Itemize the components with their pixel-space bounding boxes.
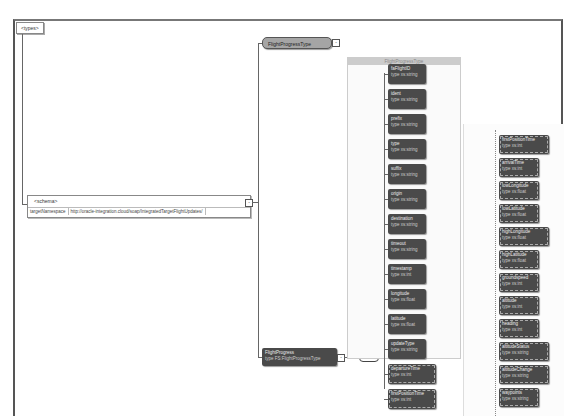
child-element-node[interactable]: altitudeChangetype xs:string [499, 365, 549, 384]
child-element-node[interactable]: waypointstype xs:string [499, 388, 539, 407]
element-type: type xs:string [502, 396, 536, 402]
element-type: type xs:int [502, 304, 536, 310]
child-element-node[interactable]: groundspeedtype xs:int [499, 273, 539, 292]
child-element-node[interactable]: timeouttype xs:string [388, 239, 426, 259]
element-type: type xs:int [391, 272, 423, 278]
child-element-node[interactable]: origintype xs:string [388, 189, 426, 209]
connector-line [384, 124, 388, 125]
element-type: type xs:string [391, 347, 423, 353]
child-element-node[interactable]: longitudetype xs:float [388, 289, 426, 309]
element-type: type xs:string [391, 97, 423, 103]
element-type: type xs:float [502, 189, 536, 195]
connector-line [384, 224, 388, 225]
connector-line [384, 274, 388, 275]
element-type: type xs:string [391, 222, 423, 228]
complex-type-node[interactable]: FlightProgressType [262, 37, 332, 49]
element-type: type xs:float [391, 322, 423, 328]
element-type: type xs:float [391, 297, 423, 303]
child-element-node[interactable]: updateTypetype xs:string [388, 339, 426, 359]
element-type: type xs:int [502, 143, 546, 149]
connector-line [384, 99, 388, 100]
schema-box[interactable]: <schema> targetNamespace http://oracle-i… [27, 195, 251, 218]
element-type: type xs:string [391, 247, 423, 253]
child-element-node[interactable]: arrivalTimetype xs:int [499, 158, 539, 177]
child-element-node[interactable]: identtype xs:string [388, 89, 426, 109]
element-type: type xs:string [502, 350, 546, 356]
element-type: type xs:string [391, 197, 423, 203]
child-element-node[interactable]: altitudeStatustype xs:string [499, 342, 549, 361]
element-type: type FS:FlightProgressType [265, 356, 334, 362]
child-element-node[interactable]: faFlightIDtype xs:string [388, 64, 426, 84]
element-type: type xs:int [502, 327, 536, 333]
child-element-node[interactable]: departureTimetype xs:int [388, 364, 436, 384]
connector-line [384, 324, 388, 325]
element-type: type xs:string [391, 122, 423, 128]
element-type: type xs:string [391, 72, 423, 78]
child-element-node[interactable]: timestamptype xs:int [388, 264, 426, 284]
types-tag[interactable]: <types> [16, 22, 44, 34]
connector-line [384, 249, 388, 250]
connector-line [384, 174, 388, 175]
element-type: type xs:int [391, 397, 433, 403]
expander-icon[interactable]: - [337, 354, 345, 362]
expander-icon[interactable]: - [332, 39, 340, 47]
connector-line [384, 73, 385, 389]
schema-title: <schema> [28, 196, 250, 208]
connector-line [384, 299, 388, 300]
element-type: type xs:string [391, 147, 423, 153]
element-type: type xs:float [502, 235, 546, 241]
connector-line [384, 149, 388, 150]
child-element-node[interactable]: lowLongitudetype xs:float [499, 181, 539, 200]
element-type: type xs:int [391, 372, 433, 378]
child-element-node[interactable]: headingtype xs:int [499, 319, 539, 338]
connector-line [22, 34, 23, 204]
connector-line [384, 199, 388, 200]
child-element-node[interactable]: latitudetype xs:float [388, 314, 426, 334]
child-element-node[interactable]: highLatitudetype xs:float [499, 250, 539, 269]
child-element-node[interactable]: lowLatitudetype xs:float [499, 204, 539, 223]
schema-attr-name: targetNamespace [28, 208, 69, 215]
child-element-node[interactable]: altitudetype xs:int [499, 296, 539, 315]
element-type: type xs:float [502, 258, 536, 264]
child-element-node[interactable]: highLongitudetype xs:float [499, 227, 549, 246]
child-element-node[interactable]: prefixtype xs:string [388, 114, 426, 134]
schema-attr-value: http://oracle-integration.cloud/soap/Int… [69, 208, 206, 215]
connector-line [258, 43, 259, 357]
connector-line [384, 399, 388, 400]
element-type: type xs:string [391, 172, 423, 178]
connector-line [384, 374, 388, 375]
connector-line [384, 74, 388, 75]
connector-line [384, 349, 388, 350]
child-element-node[interactable]: suffixtype xs:string [388, 164, 426, 184]
child-element-node[interactable]: typetype xs:string [388, 139, 426, 159]
child-element-node[interactable]: destinationtype xs:string [388, 214, 426, 234]
element-type: type xs:string [502, 373, 546, 379]
connector-line [495, 130, 496, 416]
schema-expander-icon[interactable]: - [245, 199, 253, 207]
child-element-node[interactable]: firstPositionTimetype xs:int [499, 135, 549, 154]
child-element-node[interactable]: firstPositionTimetype xs:int [388, 389, 436, 409]
element-type: type xs:float [502, 212, 536, 218]
element-type: type xs:int [502, 166, 536, 172]
element-type: type xs:int [502, 281, 536, 287]
element-node-flightprogress[interactable]: FlightProgress type FS:FlightProgressTyp… [262, 348, 337, 366]
